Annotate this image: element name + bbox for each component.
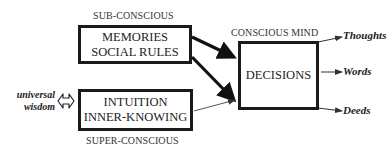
decisions-box: DECISIONS bbox=[238, 41, 319, 110]
memories-box: MEMORIES SOCIAL RULES bbox=[78, 25, 192, 64]
arrow-memories-to-decisions-1 bbox=[192, 37, 234, 57]
universal-wisdom-line-1: universal bbox=[8, 89, 55, 101]
superconscious-label: SUPER-CONSCIOUS bbox=[86, 135, 179, 146]
arrow-to-deeds bbox=[318, 108, 342, 111]
subconscious-label: SUB-CONSCIOUS bbox=[93, 10, 174, 21]
intuition-line-2: INNER-KNOWING bbox=[84, 110, 187, 125]
memories-line-1: MEMORIES bbox=[102, 30, 168, 45]
arrow-memories-to-decisions-2 bbox=[192, 57, 234, 100]
memories-line-2: SOCIAL RULES bbox=[91, 45, 178, 60]
bidirectional-arrow-icon bbox=[58, 94, 74, 108]
universal-wisdom-label: universal wisdom bbox=[8, 89, 55, 113]
output-words: Words bbox=[343, 65, 372, 77]
universal-wisdom-line-2: wisdom bbox=[8, 101, 55, 113]
intuition-line-1: INTUITION bbox=[104, 95, 168, 110]
output-deeds: Deeds bbox=[343, 104, 371, 116]
conscious-mind-label: CONSCIOUS MIND bbox=[231, 27, 318, 38]
arrow-to-thoughts bbox=[318, 37, 342, 42]
output-thoughts: Thoughts bbox=[343, 29, 386, 41]
decisions-text: DECISIONS bbox=[246, 68, 311, 83]
intuition-box: INTUITION INNER-KNOWING bbox=[78, 89, 193, 131]
arrow-intuition-to-decisions bbox=[194, 100, 235, 111]
arrows-layer bbox=[0, 0, 390, 155]
